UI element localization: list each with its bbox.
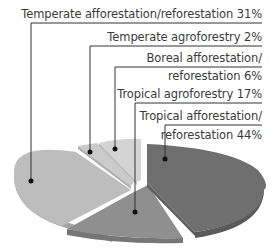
marker-tropical-aff xyxy=(163,157,168,162)
label-temperate-agro: Temperate agroforestry 2% xyxy=(106,30,262,44)
label-tropical-agro: Tropical agroforestry 17% xyxy=(116,87,262,101)
marker-temperate-aff xyxy=(29,179,34,184)
label-tropical-aff-line1: Tropical afforestation/ xyxy=(139,109,263,123)
marker-boreal-aff xyxy=(113,147,118,152)
label-boreal-aff-line2: reforestation 6% xyxy=(168,69,262,83)
marker-tropical-agro xyxy=(133,210,138,215)
label-tropical-aff-line2: reforestation 44% xyxy=(161,128,262,142)
pie-slices xyxy=(14,139,266,244)
callout-labels: Temperate afforestation/reforestation 31… xyxy=(20,7,262,142)
marker-temperate-agro xyxy=(88,150,93,155)
label-boreal-aff-line1: Boreal afforestation/ xyxy=(147,51,263,65)
label-temperate-aff: Temperate afforestation/reforestation 31… xyxy=(20,7,262,21)
pie-chart: Temperate afforestation/reforestation 31… xyxy=(0,0,280,248)
